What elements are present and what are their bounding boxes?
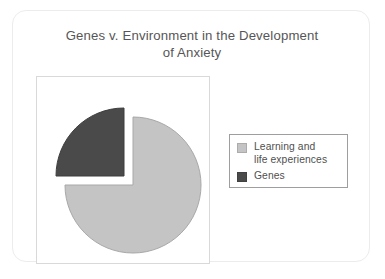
legend-label-learning-and-life-experiences: Learning and life experiences xyxy=(254,141,327,166)
legend-swatch-learning-and-life-experiences xyxy=(237,143,247,153)
legend-item-learning-and-life-experiences[interactable]: Learning and life experiences xyxy=(237,141,327,166)
pie-slice-genes[interactable] xyxy=(56,108,124,176)
legend-swatch-genes xyxy=(237,172,247,182)
legend-label-genes: Genes xyxy=(254,170,285,183)
page-title: Genes v. Environment in the Development … xyxy=(39,27,345,61)
legend-item-genes[interactable]: Genes xyxy=(237,170,285,183)
chart-plot-area xyxy=(36,76,210,264)
chart-legend: Learning and life experiences Genes xyxy=(229,134,348,188)
slide-card: Genes v. Environment in the Development … xyxy=(12,10,370,262)
pie-chart xyxy=(37,77,209,263)
